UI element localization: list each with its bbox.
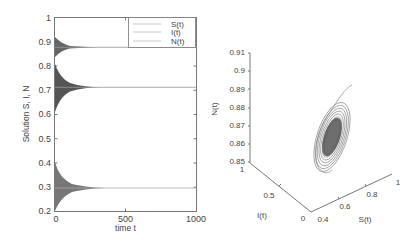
z-tick-label: 0.88 [229,103,245,112]
y-tick-label: 0.8 [38,61,51,71]
y-tick-label: 0.5 [38,134,51,144]
legend: S(t) I(t) N(t) [129,18,196,48]
y-axis-label: Solution S, I, N [21,86,31,143]
s-axis-label: S(t) [359,215,372,224]
legend-label-n: N(t) [171,37,185,46]
i-tick-label: 0.5 [263,191,275,200]
x-tick-label: 0 [53,214,58,224]
z-tick-label: 0.87 [229,121,245,130]
y-tick-label: 0.3 [38,182,51,192]
y-tick-label: 0.7 [38,85,51,95]
s-tick-label: 0.6 [339,202,351,211]
y-tick-label: 1 [46,13,51,23]
z-tick-label: 0.89 [229,85,245,94]
y-tick-labels: 0.2 0.3 0.4 0.5 0.6 0.7 0.8 0.9 1 [38,13,51,216]
i-axis-label: I(t) [257,211,267,220]
x-tick-label: 1000 [186,214,206,224]
time-series-plot: 0.2 0.3 0.4 0.5 0.6 0.7 0.8 0.9 1 0 500 … [21,13,206,233]
i-tick-label: 0 [301,214,306,223]
z-tick-label: 0.9 [234,66,246,75]
phase-space-3d-plot: 0.91 0.9 0.89 0.88 0.87 0.86 0.85 N(t) 1… [210,48,401,224]
y-tick-label: 0.6 [38,109,51,119]
y-tick-label: 0.2 [38,206,51,216]
y-tick-label: 0.9 [38,37,51,47]
s-tick-label: 1 [396,178,401,187]
z-tick-label: 0.86 [229,139,245,148]
s-axis [311,174,392,212]
z-axis-label: N(t) [210,102,219,116]
i-tick-labels: 1 0.5 0 [240,165,306,223]
z-tick-labels: 0.91 0.9 0.89 0.88 0.87 0.86 0.85 [229,48,245,166]
i-axis [250,163,311,212]
y-tick-label: 0.4 [38,158,51,168]
figure: 0.2 0.3 0.4 0.5 0.6 0.7 0.8 0.9 1 0 500 … [0,0,418,243]
z-tick-label: 0.91 [229,48,245,57]
s-tick-label: 0.4 [317,215,329,224]
s-tick-label: 0.8 [366,190,378,199]
i-tick-label: 1 [240,165,245,174]
legend-label-i: I(t) [171,28,181,37]
x-axis-label: time t [115,223,136,233]
